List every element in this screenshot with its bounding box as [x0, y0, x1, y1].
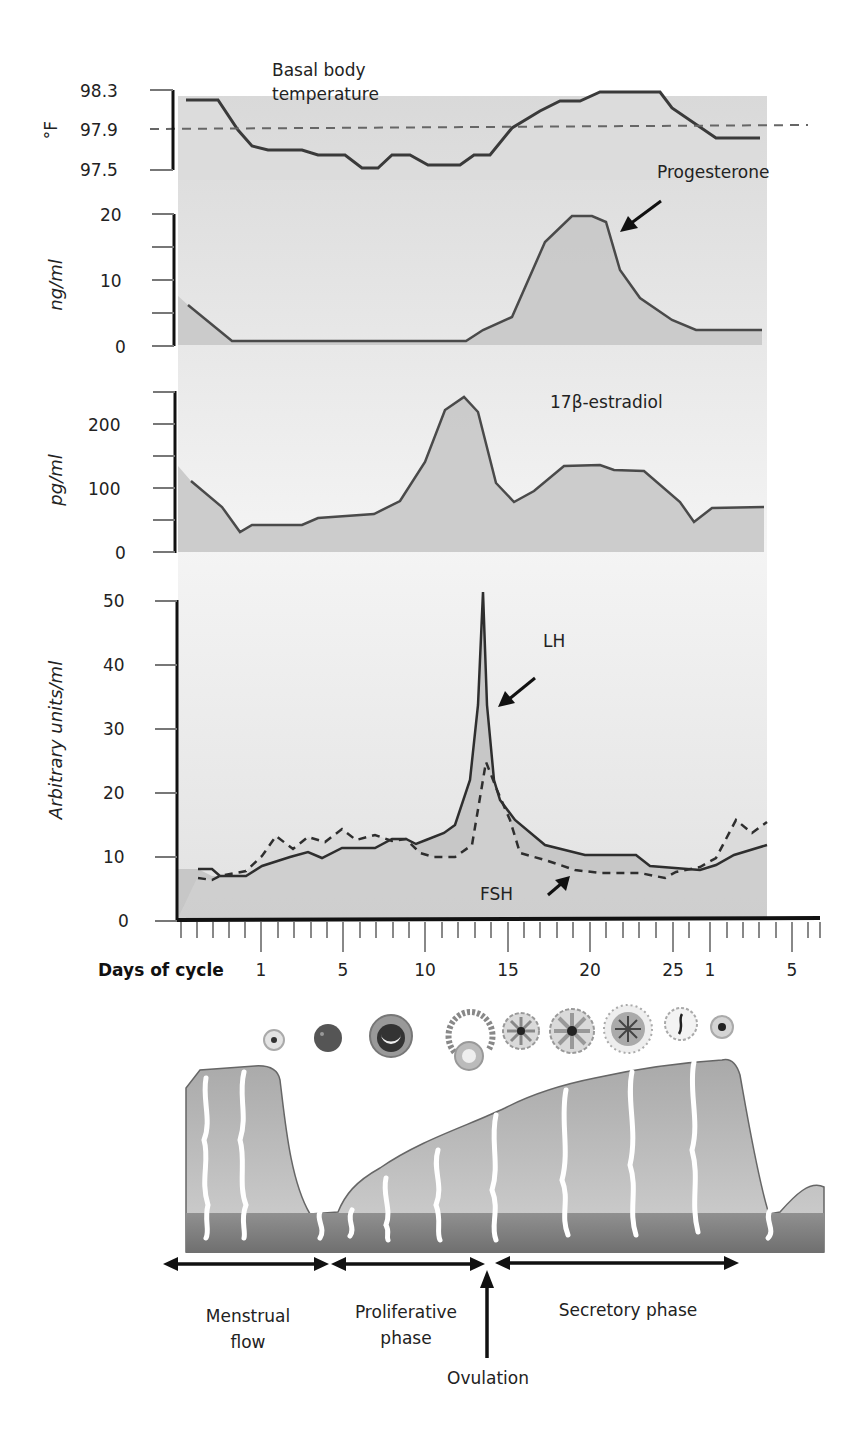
corpus-albicans-icon: [665, 1008, 697, 1040]
day-tick-label: 1: [256, 960, 267, 980]
bbt-tick-label: 97.9: [80, 120, 118, 140]
days-x-axis: [177, 918, 820, 920]
proliferative-phase-arrow: [331, 1257, 485, 1271]
phase-markers: Menstrual flow Proliferative phase Secre…: [163, 1256, 739, 1388]
corpus-luteum-late-icon: [604, 1005, 652, 1053]
progesterone-tick-label: 0: [115, 337, 126, 357]
estradiol-label: 17β-estradiol: [550, 392, 663, 412]
day-tick-label: 10: [414, 960, 436, 980]
menstrual-flow-label-line2: flow: [230, 1332, 265, 1352]
primordial-follicle-icon: [264, 1030, 284, 1050]
endometrium-basal-layer: [186, 1213, 824, 1253]
follicle-stages: [264, 1005, 733, 1070]
progesterone-label: Progesterone: [657, 162, 769, 182]
progesterone-unit-label: ng/ml: [45, 259, 66, 310]
proliferative-phase-label-line1: Proliferative: [355, 1302, 457, 1322]
lh-label: LH: [543, 631, 565, 651]
ovulation-label: Ovulation: [447, 1368, 529, 1388]
estradiol-tick-label: 200: [88, 415, 120, 435]
estradiol-unit-label: pg/ml: [45, 454, 66, 506]
secondary-follicle-icon: [370, 1015, 412, 1057]
menstrual-cycle-figure: 98.3 97.9 97.5 °F Basal body temperature…: [0, 0, 868, 1438]
fsh-label: FSH: [480, 884, 513, 904]
day-tick-label: 20: [579, 960, 601, 980]
endometrium-diagram: [186, 1060, 824, 1253]
progesterone-tick-label: 20: [100, 205, 122, 225]
ovulating-follicle-icon: [449, 1012, 493, 1070]
corpus-luteum-mid-icon: [550, 1009, 594, 1053]
ovulation-arrow-icon: [480, 1270, 494, 1358]
day-tick-label: 5: [787, 960, 798, 980]
menstrual-flow-arrow: [163, 1257, 329, 1271]
primary-follicle-icon: [314, 1024, 342, 1052]
gonadotropin-tick-label: 40: [103, 655, 125, 675]
gonadotropin-tick-label: 0: [118, 911, 129, 931]
gonadotropin-tick-label: 30: [103, 719, 125, 739]
secretory-phase-arrow: [495, 1256, 739, 1270]
progesterone-tick-label: 10: [100, 271, 122, 291]
day-tick-label: 25: [662, 960, 684, 980]
gonadotropin-tick-label: 50: [103, 591, 125, 611]
bbt-tick-label: 97.5: [80, 160, 118, 180]
bbt-tick-label: 98.3: [80, 81, 118, 101]
gonadotropin-unit-label: Arbitrary units/ml: [45, 661, 66, 820]
estradiol-tick-label: 0: [115, 543, 126, 563]
secretory-phase-label: Secretory phase: [559, 1300, 698, 1320]
proliferative-phase-label-line2: phase: [380, 1328, 431, 1348]
menstrual-flow-label-line1: Menstrual: [206, 1306, 290, 1326]
new-follicle-icon: [711, 1016, 733, 1038]
estradiol-tick-label: 100: [88, 479, 120, 499]
day-tick-label: 15: [497, 960, 519, 980]
bbt-unit-label: °F: [41, 121, 61, 139]
gonadotropin-tick-label: 10: [103, 847, 125, 867]
day-ticks: [181, 922, 820, 952]
day-tick-label: 1: [705, 960, 716, 980]
bbt-title-line2: temperature: [272, 84, 379, 104]
bbt-title-line1: Basal body: [272, 60, 366, 80]
days-axis-label: Days of cycle: [98, 960, 224, 980]
day-tick-label: 5: [338, 960, 349, 980]
gonadotropin-tick-label: 20: [103, 783, 125, 803]
corpus-luteum-early-icon: [503, 1013, 539, 1049]
